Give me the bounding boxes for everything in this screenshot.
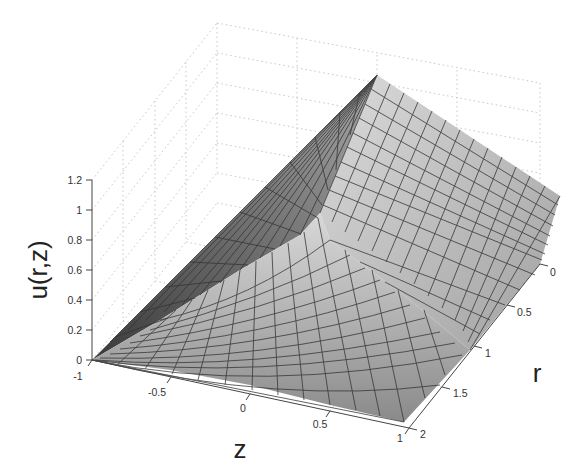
svg-text:0.6: 0.6: [67, 264, 82, 276]
svg-text:0.5: 0.5: [313, 418, 328, 430]
svg-text:1.2: 1.2: [67, 174, 82, 186]
r-axis-label: r: [533, 358, 542, 388]
svg-text:1: 1: [485, 347, 491, 359]
svg-text:0.5: 0.5: [517, 306, 532, 318]
svg-text:0: 0: [550, 266, 556, 278]
svg-text:0.8: 0.8: [67, 234, 82, 246]
svg-text:1: 1: [76, 204, 82, 216]
surface: [92, 75, 560, 422]
z-axis-label: z: [234, 434, 247, 464]
u-tick-labels: 1.2 1 0.8 0.6 0.4 0.2 0: [67, 174, 82, 366]
svg-text:0: 0: [76, 354, 82, 366]
surface-plot: 1.2 1 0.8 0.6 0.4 0.2 0 -1 -0.5 0 0.5 1 …: [0, 0, 586, 476]
u-axis-label: u(r,z): [23, 240, 53, 299]
svg-text:-0.5: -0.5: [148, 386, 166, 398]
svg-text:0.4: 0.4: [67, 294, 82, 306]
svg-text:1.5: 1.5: [453, 387, 468, 399]
svg-text:2: 2: [420, 428, 426, 440]
svg-text:1: 1: [397, 432, 403, 444]
svg-text:0.2: 0.2: [67, 324, 82, 336]
svg-text:-1: -1: [73, 370, 82, 382]
svg-text:0: 0: [240, 402, 246, 414]
